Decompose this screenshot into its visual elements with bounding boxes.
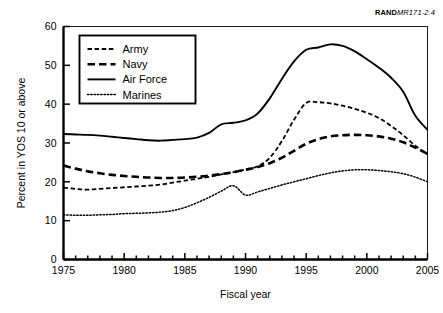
series-line-army (64, 101, 428, 189)
x-tick-label: 1985 (173, 264, 197, 276)
x-tick-label: 1990 (234, 264, 258, 276)
y-tick-label: 50 (45, 59, 57, 71)
x-tick-label: 2000 (355, 264, 379, 276)
line-chart: 0102030405060 19751980198519901995200020… (0, 0, 443, 313)
y-tick-label: 10 (45, 214, 57, 226)
x-tick-label: 1995 (294, 264, 318, 276)
y-tick-label: 40 (45, 98, 57, 110)
y-tick-label: 30 (45, 137, 57, 149)
series-line-marines (64, 170, 428, 216)
legend-label-air-force: Air Force (123, 73, 168, 85)
y-tick-label: 60 (45, 20, 57, 32)
x-tick-label: 1980 (112, 264, 136, 276)
legend-label-marines: Marines (123, 89, 163, 101)
y-tick-label: 20 (45, 176, 57, 188)
y-axis-title: Percent in YOS 10 or above (15, 78, 27, 209)
y-axis-tick-labels: 0102030405060 (45, 20, 57, 265)
x-axis-tick-labels: 1975198019851990199520002005 (52, 264, 440, 276)
legend-label-army: Army (123, 43, 149, 55)
legend-label-navy: Navy (123, 58, 149, 70)
series-line-navy (64, 135, 428, 178)
x-tick-label: 1975 (52, 264, 76, 276)
x-axis-title: Fiscal year (220, 288, 271, 300)
x-tick-label: 2005 (416, 264, 440, 276)
legend: ArmyNavyAir ForceMarines (80, 36, 196, 104)
